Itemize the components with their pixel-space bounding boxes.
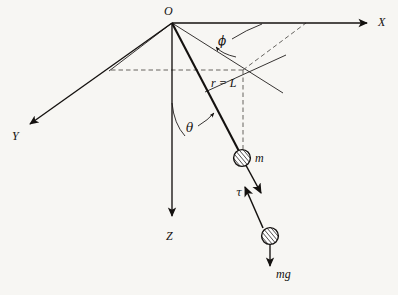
theta-angle-pointer <box>198 113 214 126</box>
mass-label: m <box>255 151 264 165</box>
tension-label: τ <box>236 186 242 198</box>
diagram-canvas: O X Y Z ϕ θ r = L m τ mg <box>0 0 398 295</box>
weight-label: mg <box>276 267 291 281</box>
free-body-bob <box>262 228 279 245</box>
x-plane-dashed <box>243 23 306 70</box>
theta-angle-arc <box>172 103 185 136</box>
x-axis-label: X <box>377 15 386 29</box>
origin-label: O <box>164 4 173 18</box>
pendulum-bob <box>234 150 251 167</box>
phi-angle-arc <box>232 24 262 39</box>
z-axis-label: Z <box>166 229 173 243</box>
theta-angle-label: θ <box>186 121 194 135</box>
y-axis-label: Y <box>12 129 20 143</box>
physics-diagram-figure: O X Y Z ϕ θ r = L m τ mg <box>0 0 398 295</box>
phi-angle-pointer <box>216 47 236 57</box>
radius-label: r = L <box>211 76 237 90</box>
phi-angle-label: ϕ <box>218 34 226 48</box>
y-axis-line <box>30 23 172 124</box>
